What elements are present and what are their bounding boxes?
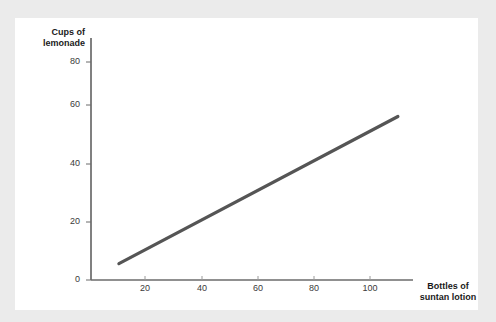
y-axis-title-line1: Cups of (52, 27, 86, 37)
x-tick-label-20: 20 (130, 283, 160, 293)
chart-page: Cups oflemonade Bottles ofsuntan lotion … (0, 0, 496, 322)
y-tick-label-0: 0 (54, 274, 80, 284)
y-tick-label-60: 60 (54, 99, 80, 109)
x-tick-label-100: 100 (355, 283, 385, 293)
y-axis-title: Cups oflemonade (0, 27, 85, 49)
y-tick-label-40: 40 (54, 158, 80, 168)
x-axis-title-line2: suntan lotion (420, 292, 477, 302)
x-tick-label-80: 80 (299, 283, 329, 293)
x-tick-label-60: 60 (243, 283, 273, 293)
y-axis-title-line2: lemonade (43, 38, 85, 48)
trend-line (119, 117, 398, 264)
y-tick-label-80: 80 (54, 56, 80, 66)
x-axis-title-line1: Bottles of (427, 281, 469, 291)
x-axis-title: Bottles ofsuntan lotion (400, 281, 496, 303)
scatter-plot-figure: Cups oflemonade Bottles ofsuntan lotion … (0, 0, 496, 322)
y-tick-label-20: 20 (54, 216, 80, 226)
x-tick-label-40: 40 (187, 283, 217, 293)
